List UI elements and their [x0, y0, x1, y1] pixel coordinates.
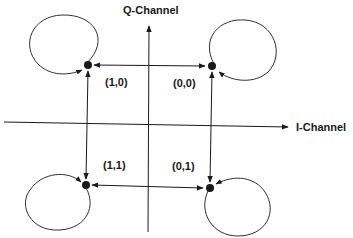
- transition-left: [86, 71, 88, 179]
- state-label-bottom-left: (1,1): [103, 159, 126, 171]
- state-point-top-right: [208, 62, 216, 70]
- state-label-bottom-right: (0,1): [172, 160, 195, 172]
- state-label-top-left: (1,0): [105, 76, 128, 88]
- state-point-bottom-left: [82, 181, 90, 189]
- self-loop-bottom-right: [205, 178, 270, 236]
- transition-bottom: [92, 185, 203, 188]
- q-axis: [148, 26, 149, 232]
- transition-top: [94, 65, 205, 66]
- self-loop-bottom-left: [25, 174, 90, 230]
- transition-right: [210, 72, 212, 182]
- state-point-top-left: [84, 61, 92, 69]
- q-channel-label: Q-Channel: [123, 4, 179, 16]
- i-axis: [4, 122, 288, 127]
- i-channel-label: I-Channel: [296, 121, 346, 133]
- self-loop-top-right: [209, 20, 276, 80]
- constellation-diagram: Q-Channel I-Channel (1,0) (0,0) (1,1) (0…: [0, 0, 353, 238]
- state-label-top-right: (0,0): [173, 77, 196, 89]
- state-point-bottom-right: [206, 184, 214, 192]
